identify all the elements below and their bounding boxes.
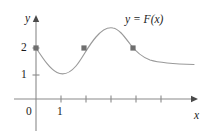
marked-point-2 [81,45,86,50]
x-axis-arrowhead [191,96,198,102]
y-tick-label-2: 2 [21,42,27,54]
plot-canvas [0,0,205,139]
function-graph-figure: y x 2 1 0 1 y = F(x) [0,0,205,139]
x-axis-label: x [194,110,199,122]
marked-point-3 [130,45,135,50]
y-axis-arrowhead [33,15,39,22]
x-tick-label-1: 1 [57,106,63,118]
y-axis-label: y [25,13,30,25]
origin-label: 0 [26,106,32,118]
function-curve [36,28,194,74]
curve-equation-label: y = F(x) [125,14,163,26]
y-tick-label-1: 1 [21,69,27,81]
marked-point-1 [33,45,38,50]
